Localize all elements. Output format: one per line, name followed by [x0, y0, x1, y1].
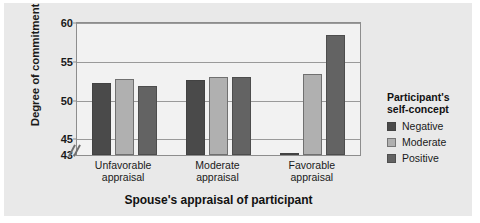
bar-moderate-2 — [209, 77, 228, 155]
bar-positive-3 — [326, 35, 345, 155]
x-tick-label: Moderateappraisal — [195, 159, 239, 183]
bar-group — [77, 23, 171, 155]
chart-panel: Degree of commitment 4345505560 Unfavora… — [4, 3, 472, 216]
legend-items: NegativeModeratePositive — [387, 120, 480, 164]
bar-positive-2 — [232, 77, 251, 155]
legend-title: Participant'sself-concept — [387, 91, 480, 115]
legend: Participant'sself-concept NegativeModera… — [387, 91, 480, 168]
y-axis-title: Degree of commitment — [29, 0, 41, 140]
bar-negative-3 — [280, 153, 299, 155]
bar-group — [266, 23, 360, 155]
legend-item-negative[interactable]: Negative — [387, 120, 480, 132]
y-tick-label: 60 — [61, 17, 73, 29]
legend-item-positive[interactable]: Positive — [387, 152, 480, 164]
bar-positive-1 — [138, 86, 157, 155]
x-tick-label: Unfavorableappraisal — [95, 159, 152, 183]
x-axis-title: Spouse's appraisal of participant — [76, 193, 361, 207]
legend-swatch-icon — [387, 154, 396, 163]
legend-label: Negative — [402, 120, 443, 132]
legend-label: Positive — [402, 152, 439, 164]
x-tick-label: Favorableappraisal — [288, 159, 335, 183]
legend-swatch-icon — [387, 138, 396, 147]
y-tick-label: 55 — [61, 56, 73, 68]
bar-moderate-3 — [303, 74, 322, 155]
bar-group — [171, 23, 265, 155]
chart-figure: Degree of commitment 4345505560 Unfavora… — [0, 0, 480, 223]
legend-swatch-icon — [387, 122, 396, 131]
bar-moderate-1 — [115, 79, 134, 155]
legend-label: Moderate — [402, 136, 446, 148]
legend-item-moderate[interactable]: Moderate — [387, 136, 480, 148]
bar-series-container — [77, 23, 360, 155]
plot-area: 4345505560 — [76, 22, 361, 156]
y-tick-label: 50 — [61, 95, 73, 107]
x-axis-tick-labels: UnfavorableappraisalModerateappraisalFav… — [76, 159, 361, 189]
bar-negative-1 — [92, 83, 111, 155]
bar-negative-2 — [186, 80, 205, 155]
